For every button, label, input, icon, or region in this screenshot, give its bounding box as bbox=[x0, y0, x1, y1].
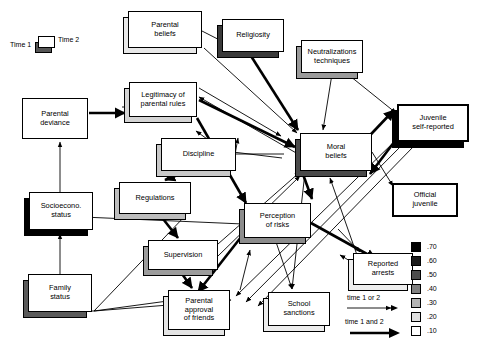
strength-swatch-40 bbox=[411, 284, 421, 294]
arrow-legend-thin-label: time 1 or 2 bbox=[347, 294, 380, 301]
node-label-socioeconomic-status: Socioecono. status bbox=[41, 202, 82, 219]
arrow-legend-thick-icon bbox=[350, 327, 404, 339]
strength-value-20: .20 bbox=[427, 313, 437, 320]
node-label-official-juvenile: Official juvenile bbox=[412, 191, 437, 208]
arrow-legend-thick-label: time 1 and 2 bbox=[345, 318, 384, 325]
node-supervision[interactable]: Supervision bbox=[148, 240, 218, 270]
node-label-parental-approval: Parental approval of friends bbox=[184, 297, 214, 323]
node-label-perception-of-risks: Perception of risks bbox=[260, 212, 295, 229]
strength-value-50: .50 bbox=[427, 271, 437, 278]
node-religiosity[interactable]: Religiosity bbox=[222, 19, 284, 52]
strength-swatch-10 bbox=[411, 326, 421, 336]
node-label-juvenile-self-reported: Juvenile self-reported bbox=[412, 114, 454, 131]
strength-value-30: .30 bbox=[427, 299, 437, 306]
node-moral-beliefs[interactable]: Moral beliefs bbox=[300, 133, 372, 171]
time1-box bbox=[38, 36, 55, 48]
node-parental-deviance[interactable]: Parental deviance bbox=[22, 98, 88, 139]
strength-swatch-50 bbox=[411, 270, 421, 280]
strength-value-10: .10 bbox=[427, 327, 437, 334]
node-juvenile-self-reported[interactable]: Juvenile self-reported bbox=[397, 104, 469, 142]
node-label-family-status: Family status bbox=[49, 284, 71, 301]
node-label-supervision: Supervision bbox=[164, 251, 203, 260]
node-label-legitimacy: Legitimacy of parental rules bbox=[141, 91, 186, 108]
node-label-parental-deviance: Parental deviance bbox=[40, 110, 70, 127]
strength-value-70: .70 bbox=[427, 243, 437, 250]
time2-label: Time 2 bbox=[58, 36, 79, 43]
node-perception-of-risks[interactable]: Perception of risks bbox=[244, 203, 311, 238]
node-label-neutralizations: Neutralizations techniques bbox=[308, 48, 357, 65]
node-reported-arrests[interactable]: Reported arrests bbox=[353, 253, 413, 285]
node-label-regulations: Regulations bbox=[135, 194, 174, 203]
strength-swatch-70 bbox=[411, 242, 421, 252]
path-diagram: Time 1 Time 2 Parental beliefsReligiosit… bbox=[0, 0, 477, 349]
node-family-status[interactable]: Family status bbox=[28, 274, 92, 312]
node-legitimacy[interactable]: Legitimacy of parental rules bbox=[129, 82, 197, 117]
node-label-discipline: Discipline bbox=[183, 150, 215, 159]
node-parental-approval[interactable]: Parental approval of friends bbox=[168, 290, 230, 330]
node-label-reported-arrests: Reported arrests bbox=[368, 260, 398, 277]
strength-value-60: .60 bbox=[427, 257, 437, 264]
node-label-parental-beliefs: Parental beliefs bbox=[151, 21, 179, 38]
arrow-legend-thin-icon bbox=[347, 303, 401, 313]
node-socioeconomic-status[interactable]: Socioecono. status bbox=[29, 192, 93, 230]
strength-swatch-20 bbox=[411, 312, 421, 322]
node-label-religiosity: Religiosity bbox=[236, 31, 270, 40]
strength-value-40: .40 bbox=[427, 285, 437, 292]
node-label-school-sanctions: School sanctions bbox=[283, 300, 314, 317]
time1-label: Time 1 bbox=[10, 41, 31, 48]
node-official-juvenile[interactable]: Official juvenile bbox=[392, 183, 458, 217]
node-discipline[interactable]: Discipline bbox=[161, 138, 236, 171]
node-label-moral-beliefs: Moral beliefs bbox=[325, 143, 346, 160]
node-neutralizations[interactable]: Neutralizations techniques bbox=[301, 40, 363, 73]
node-school-sanctions[interactable]: School sanctions bbox=[268, 292, 330, 326]
node-parental-beliefs[interactable]: Parental beliefs bbox=[128, 11, 202, 48]
node-regulations[interactable]: Regulations bbox=[119, 182, 191, 214]
strength-swatch-60 bbox=[411, 256, 421, 266]
strength-swatch-30 bbox=[411, 298, 421, 308]
